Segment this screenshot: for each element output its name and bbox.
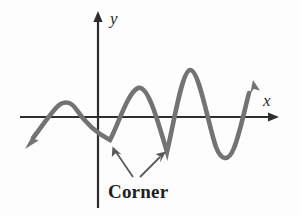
graph-figure: y x Corner	[0, 0, 300, 216]
curve-path	[33, 70, 249, 158]
x-axis-arrowhead-icon	[268, 112, 279, 121]
y-axis	[93, 11, 102, 208]
y-axis-arrowhead-icon	[93, 11, 102, 22]
oscillating-curve	[25, 70, 260, 158]
x-axis-label: x	[262, 91, 271, 110]
corner-arrow-2-line	[140, 157, 160, 177]
corner-annotation-label: Corner	[108, 181, 169, 202]
corner-arrow-1-line	[116, 152, 133, 177]
curve-right-arrowhead-icon	[250, 80, 260, 95]
figure-container: y x Corner	[0, 0, 300, 216]
corner-arrow-1-head-icon	[112, 147, 122, 158]
corner-callout-arrows	[112, 147, 166, 178]
y-axis-label: y	[108, 9, 118, 28]
